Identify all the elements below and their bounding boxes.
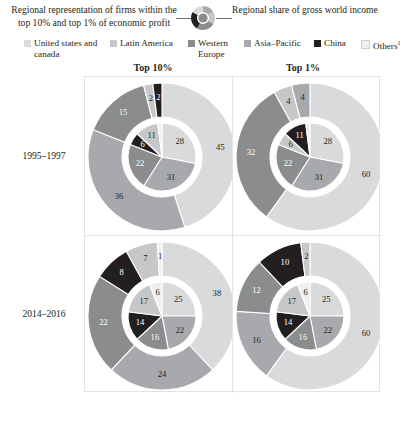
donut-chart-2014-2016-top10[interactable]: 38242287125221614176 <box>85 236 232 394</box>
slice-value-label: 1 <box>158 251 162 261</box>
row-label-2014-2016: 2014–2016 <box>6 308 82 319</box>
legend-item-others[interactable]: Others1 <box>361 38 403 52</box>
slice-value-label: 22 <box>136 158 145 168</box>
slice-value-label: 8 <box>119 267 123 277</box>
nested-donut: 45361522283122611 <box>85 77 232 235</box>
slice-value-label: 4 <box>300 92 305 102</box>
nested-donut: 60161210225221614176 <box>233 236 380 394</box>
slice-value-label: 31 <box>167 172 176 182</box>
slice-value-label: 10 <box>281 257 290 267</box>
legend-label: Western Europe <box>198 38 240 60</box>
slice-value-label: 60 <box>362 328 371 338</box>
header-marker <box>176 1 230 37</box>
slice-value-label: 14 <box>284 317 293 327</box>
slice-value-label: 24 <box>158 369 167 379</box>
slice-value-label: 2 <box>156 92 160 102</box>
slice-value-label: 15 <box>119 107 128 117</box>
slice-value-label: 12 <box>252 285 261 295</box>
column-header-top10: Top 10% <box>84 62 222 73</box>
slice-value-label: 2 <box>304 251 308 261</box>
header-right-caption: Regional share of gross world income <box>232 3 400 16</box>
slice-value-label: 22 <box>175 325 184 335</box>
slice-value-label: 11 <box>147 130 155 140</box>
legend-swatch-icon <box>361 40 370 49</box>
legend-swatch-icon <box>188 40 195 47</box>
legend-label: Latin America <box>120 38 173 49</box>
slice-value-label: 28 <box>323 136 332 146</box>
leader-line-right <box>216 18 232 19</box>
slice-value-label: 25 <box>174 294 183 304</box>
slice-value-label: 28 <box>175 136 184 146</box>
slice-value-label: 7 <box>143 253 148 263</box>
legend-swatch-icon <box>110 40 117 47</box>
nested-donut: 603244283122611 <box>233 77 380 235</box>
legend-item-asia-pacific[interactable]: Asia–Pacific <box>244 38 314 49</box>
legend-item-united-states-and-canada[interactable]: United states and canada <box>24 38 104 60</box>
slice-value-label: 4 <box>286 96 291 106</box>
legend-label: Asia–Pacific <box>254 38 301 49</box>
legend-label: Others1 <box>373 38 401 52</box>
header-left-caption: Regional representation of firms within … <box>8 3 180 29</box>
slice-value-label: 31 <box>315 172 324 182</box>
legend-label: China <box>324 38 346 49</box>
slice-value-label: 45 <box>216 142 225 152</box>
slice-value-label: 6 <box>156 287 161 297</box>
slice-value-label: 17 <box>140 296 149 306</box>
nested-donut: 38242287125221614176 <box>85 236 232 394</box>
slice-value-label: 11 <box>295 130 303 140</box>
slice-value-label: 22 <box>284 158 293 168</box>
legend-footnote-marker: 1 <box>398 40 401 46</box>
legend-swatch-icon <box>244 40 251 47</box>
donut-chart-1995-1997-top1[interactable]: 603244283122611 <box>233 77 380 235</box>
legend: United states and canada Latin America W… <box>0 38 403 64</box>
chart-grid: 45361522283122611 603244283122611 382422… <box>84 76 380 392</box>
figure-header: Regional representation of firms within … <box>0 0 403 40</box>
legend-label: United states and canada <box>34 38 104 60</box>
slice-value-label: 6 <box>304 287 309 297</box>
legend-swatch-icon <box>314 40 321 47</box>
slice-value-label: 17 <box>288 296 297 306</box>
legend-item-china[interactable]: China <box>314 38 358 49</box>
slice-value-label: 36 <box>115 191 124 201</box>
slice-value-label: 38 <box>213 288 222 298</box>
slice-value-label: 16 <box>151 332 160 342</box>
slice-value-label: 16 <box>299 332 308 342</box>
slice-value-label: 14 <box>136 317 145 327</box>
legend-item-latin-america[interactable]: Latin America <box>110 38 186 49</box>
donut-chart-icon <box>190 3 216 33</box>
slice-value-label: 32 <box>247 147 256 157</box>
column-header-top1: Top 1% <box>228 62 378 73</box>
slice-value-label: 2 <box>149 93 153 103</box>
legend-item-western-europe[interactable]: Western Europe <box>188 38 240 60</box>
slice-value-label: 25 <box>322 294 331 304</box>
donut-chart-2014-2016-top1[interactable]: 60161210225221614176 <box>233 236 380 394</box>
slice-value-label: 22 <box>99 317 108 327</box>
slice-value-label: 22 <box>323 325 332 335</box>
slice-value-label: 60 <box>362 169 371 179</box>
slice-value-label: 16 <box>252 335 261 345</box>
legend-swatch-icon <box>24 40 31 47</box>
donut-chart-1995-1997-top10[interactable]: 45361522283122611 <box>85 77 232 235</box>
figure-root: Regional representation of firms within … <box>0 0 403 422</box>
row-label-1995-1997: 1995–1997 <box>6 150 82 161</box>
